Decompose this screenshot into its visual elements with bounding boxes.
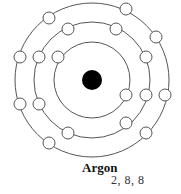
electron	[14, 51, 26, 63]
electron	[120, 117, 132, 129]
nucleus	[82, 70, 102, 90]
electron	[159, 89, 171, 101]
electron	[150, 31, 162, 43]
electron	[43, 137, 55, 149]
electron	[62, 127, 74, 139]
argon-atom-diagram	[0, 0, 181, 160]
electron	[33, 51, 45, 63]
electron	[120, 89, 132, 101]
electron	[110, 23, 122, 35]
electron	[52, 51, 64, 63]
electron	[140, 127, 152, 139]
electron	[140, 51, 152, 63]
electron	[120, 3, 132, 15]
electron	[33, 98, 45, 110]
electron	[140, 89, 152, 101]
electron-configuration: 2, 8, 8	[111, 173, 145, 188]
electron	[43, 12, 55, 24]
electron	[14, 98, 26, 110]
electron	[62, 23, 74, 35]
